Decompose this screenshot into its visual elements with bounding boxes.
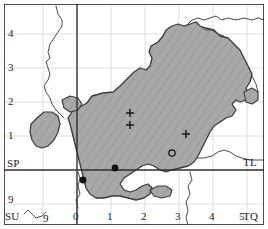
distribution-map-figure: 4 3 2 1 SP 9 SU 9 0 1 2 3 4 5 TL TQ (0, 0, 268, 229)
grid-label-easting: 3 (175, 211, 181, 222)
grid-label-easting: 1 (107, 211, 113, 222)
grid-square-label-tl: TL (243, 157, 257, 168)
grid-label-northing: 3 (8, 62, 14, 73)
grid-label-northing: 1 (8, 130, 14, 141)
grid-label-easting: 9 (43, 213, 49, 224)
grid-label-easting: 0 (73, 211, 79, 222)
grid-label-northing: 4 (8, 28, 14, 39)
grid-label-northing: 2 (8, 96, 14, 107)
grid-label-easting: 4 (209, 211, 215, 222)
grid-label-easting: 2 (141, 211, 147, 222)
marker-filled-circle (112, 165, 119, 172)
grid-square-label-sp: SP (7, 158, 20, 169)
grid-square-label-su: SU (5, 211, 19, 222)
marker-filled-circle (80, 177, 87, 184)
map-canvas (0, 0, 268, 229)
grid-label-northing: 9 (8, 194, 14, 205)
grid-square-label-tq: TQ (243, 211, 258, 222)
